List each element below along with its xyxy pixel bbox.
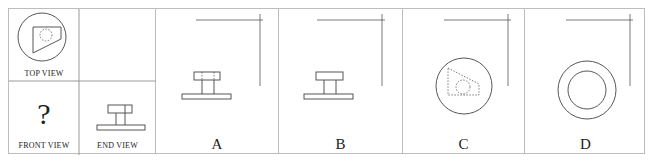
option-b-drawing: [279, 9, 403, 155]
option-c-drawing: [403, 9, 525, 155]
question-panel: TOP VIEW ? FRONT VIEW END VIEW: [9, 9, 156, 153]
option-a-drawing: [156, 9, 279, 155]
option-c-label: C: [403, 136, 524, 153]
option-a-label: A: [156, 136, 278, 153]
option-b[interactable]: B: [279, 9, 403, 153]
option-c[interactable]: C: [403, 9, 525, 153]
option-d-label: D: [525, 136, 646, 153]
option-d-drawing: [525, 9, 646, 155]
option-d[interactable]: D: [525, 9, 646, 153]
option-a[interactable]: A: [156, 9, 279, 153]
end-view-label: END VIEW: [79, 141, 156, 150]
option-b-label: B: [279, 136, 402, 153]
end-view-drawing: [9, 9, 156, 155]
puzzle-frame: TOP VIEW ? FRONT VIEW END VIEW A: [8, 8, 645, 154]
